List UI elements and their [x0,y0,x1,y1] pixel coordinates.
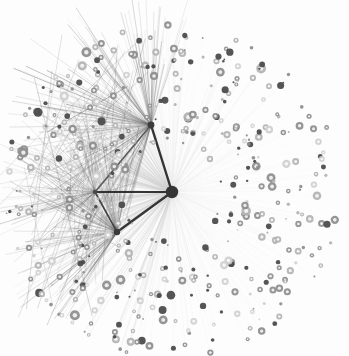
graph-node [299,185,302,188]
graph-node-core [52,234,54,236]
graph-node [8,210,11,213]
graph-node-core [68,166,71,169]
graph-node [82,271,84,273]
graph-node-core [94,68,96,70]
graph-node [77,261,83,267]
graph-node [94,205,98,209]
graph-node [91,230,94,233]
graph-node-core [276,113,278,115]
graph-node [122,86,125,89]
graph-node-core [67,75,69,77]
graph-node-core [217,295,219,297]
graph-node-core [317,140,320,143]
graph-node-core [138,79,141,82]
graph-node-core [162,128,164,130]
graph-node [100,163,102,165]
graph-node-core [271,288,274,291]
graph-node-core [63,121,65,123]
graph-node-core [174,73,177,76]
graph-node [202,244,208,250]
graph-node [230,182,236,188]
graph-node [212,218,218,224]
graph-node-core [244,209,248,213]
graph-node-core [256,214,259,217]
graph-node-core [269,176,273,180]
graph-node [119,201,126,208]
graph-node-core [235,84,237,86]
graph-node-core [326,126,328,128]
graph-node [124,163,128,167]
graph-node [259,62,265,68]
graph-node-core [46,299,48,301]
graph-node [246,134,248,136]
graph-node-core [252,77,255,80]
graph-node [237,229,239,231]
graph-node [43,101,47,105]
graph-node-core [136,341,138,343]
graph-node-core [73,168,76,171]
graph-node-core [333,218,337,222]
graph-node [9,140,14,145]
graph-node [263,302,266,305]
graph-node-core [278,267,280,269]
graph-node-core [80,64,84,68]
graph-node [167,244,169,246]
graph-node-core [277,202,279,204]
graph-node-core [214,115,217,118]
graph-node-core [86,284,88,286]
graph-node-core [174,59,176,61]
graph-node-core [68,206,71,209]
graph-node-core [181,279,185,283]
graph-node [250,46,254,50]
graph-node-core [24,114,26,116]
graph-node-core [222,263,226,267]
graph-node [126,102,128,104]
graph-node [287,203,290,206]
graph-node [166,136,169,139]
graph-node [236,80,238,82]
graph-node-core [54,114,56,116]
graph-node-core [30,278,32,280]
graph-node [111,172,115,176]
graph-node-core [129,340,133,344]
graph-node-core [269,275,272,278]
graph-node [50,90,53,93]
graph-node [246,166,250,170]
graph-node-core [53,189,55,191]
graph-node [68,187,70,189]
graph-node-core [71,322,73,324]
graph-node [279,302,282,305]
graph-node [182,33,187,38]
graph-node [288,131,290,133]
graph-node-core [243,204,246,207]
graph-node [142,318,144,320]
graph-node-core [235,176,237,178]
graph-node-core [126,351,128,353]
graph-node [223,58,225,60]
graph-node [98,117,106,125]
graph-node-core [94,46,97,49]
graph-node [83,224,88,229]
graph-node [253,308,255,310]
graph-node-core [88,334,90,336]
graph-node-core [20,207,22,209]
graph-node-core [40,293,43,296]
graph-node-core [243,140,245,142]
graph-node-core [71,291,74,294]
graph-node-core [61,314,63,316]
graph-node [140,66,142,68]
graph-node-core [100,56,102,58]
graph-node-core [130,269,132,271]
graph-node-core [125,74,128,77]
graph-node-core [89,106,92,109]
graph-node-core [128,257,130,259]
graph-node [56,155,62,161]
graph-node [84,331,86,333]
graph-node-core [59,130,62,133]
graph-node-core [257,135,260,138]
graph-node-core [182,130,184,132]
graph-node-core [213,324,215,326]
graph-node [28,171,30,173]
graph-node-core [298,124,301,127]
graph-node-core [50,259,54,263]
